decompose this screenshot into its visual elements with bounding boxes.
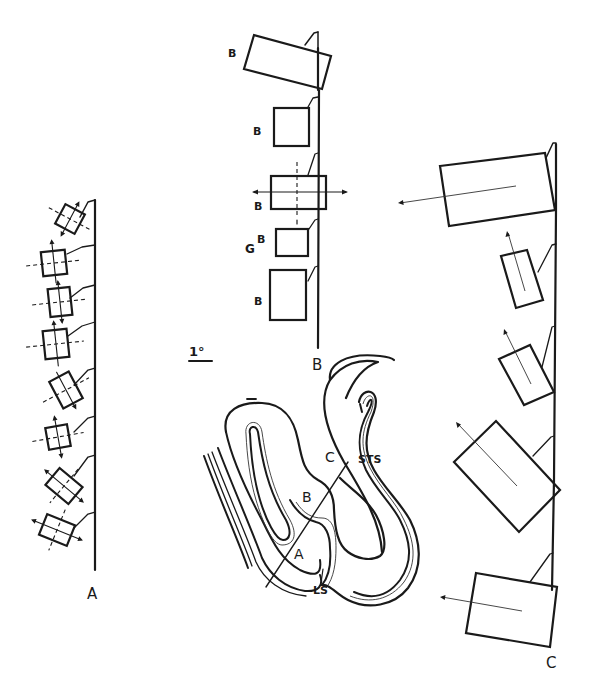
track-b-diagram: B B B B G B B [228,32,348,374]
track-c-rf-2-direction-arrow [508,233,525,291]
track-b-rf-4-label: B [257,233,265,246]
section-label-a: A [294,546,304,562]
track-a-label: A [87,585,98,603]
track-a-rf-2 [24,236,84,286]
track-b-rf-1-label: B [228,47,236,60]
track-c-rf-5-direction-arrow [442,597,522,611]
track-b-rf-2-label: B [253,125,261,138]
track-c-diagram: C [398,143,560,672]
track-a-diagram: A [23,190,101,603]
track-a-rf-8 [23,499,91,561]
track-a-rf-4 [24,317,86,369]
section-label-ls: LS [313,584,328,597]
track-b-rf-4 [276,229,308,256]
track-c-label: C [546,654,556,672]
track-b-g-label: G [245,242,255,256]
receptive-field-figure: A B B B B G B B 1° [0,0,595,698]
track-a-rf-6 [29,411,88,463]
track-a-rf-3 [30,277,90,327]
track-a-rf-7 [30,452,98,519]
track-a-rf-1 [39,190,100,248]
track-c-rf-4 [454,421,560,532]
track-c-rf-5 [466,573,557,647]
section-label-c: C [325,449,335,465]
left-gyrus-outline [225,403,384,559]
track-b-rf-5 [270,270,306,320]
track-b-label: B [312,356,322,374]
track-c-rf-1-direction-arrow [400,186,516,203]
section-label-b: B [302,489,312,505]
track-c-rf-2 [501,250,543,308]
track-b-rf-3-label: B [254,200,262,213]
track-b-rf-2 [274,108,309,146]
cortical-section-diagram: A B C STS LS [204,355,419,605]
track-b-electrode-line [318,48,319,348]
track-c-rf-1 [440,153,555,226]
section-label-sts: STS [358,453,381,466]
scale-bar: 1° [189,344,212,361]
scale-bar-label: 1° [189,344,205,359]
track-b-rf-5-label: B [254,295,262,308]
